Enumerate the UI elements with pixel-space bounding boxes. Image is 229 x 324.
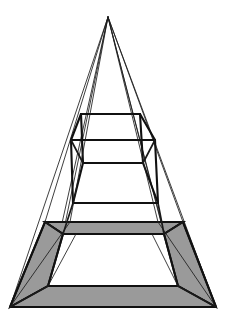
pyramid-wireframe-drawing: [0, 0, 229, 324]
figure-canvas: [0, 0, 229, 324]
